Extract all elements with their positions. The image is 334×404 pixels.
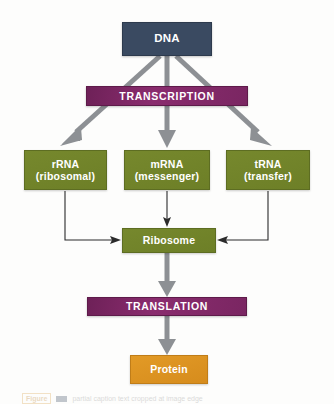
- node-protein-label: Protein: [150, 363, 188, 375]
- node-trna-sublabel: (transfer): [244, 170, 292, 182]
- node-protein: Protein: [130, 355, 208, 384]
- node-translation-label: TRANSLATION: [126, 300, 208, 312]
- node-trna-label: tRNA: [254, 158, 281, 170]
- node-transcription-label: TRANSCRIPTION: [119, 90, 214, 102]
- node-dna: DNA: [122, 22, 212, 56]
- edge-ribosome-to-translation: [158, 253, 176, 297]
- node-ribosome: Ribosome: [122, 228, 216, 253]
- node-translation: TRANSLATION: [87, 297, 247, 316]
- node-ribosome-label: Ribosome: [143, 234, 195, 246]
- caption-figure-tag: Figure: [22, 393, 51, 404]
- caption-row: Figure partial caption text cropped at i…: [22, 393, 203, 404]
- node-dna-label: DNA: [154, 32, 180, 46]
- node-mrna: mRNA (messenger): [124, 150, 210, 190]
- node-rrna-sublabel: (ribosomal): [36, 170, 95, 182]
- node-mrna-label: mRNA: [151, 158, 184, 170]
- edge-mrna-to-ribosome: [163, 191, 171, 227]
- caption-text: partial caption text cropped at image ed…: [72, 395, 202, 402]
- node-rrna-label: rRNA: [52, 158, 80, 170]
- node-rrna: rRNA (ribosomal): [24, 150, 107, 190]
- edge-trna-to-ribosome: [217, 191, 268, 244]
- node-trna: tRNA (transfer): [226, 150, 310, 190]
- edge-layer: [0, 0, 334, 404]
- node-mrna-sublabel: (messenger): [135, 170, 200, 182]
- node-transcription: TRANSCRIPTION: [86, 86, 248, 106]
- edge-rrna-to-ribosome: [65, 191, 121, 244]
- caption-strip: Figure partial caption text cropped at i…: [0, 392, 334, 404]
- edge-translation-to-protein: [158, 316, 176, 355]
- diagram-canvas: DNA TRANSCRIPTION rRNA (ribosomal) mRNA …: [0, 0, 334, 404]
- caption-swatch-icon: [56, 396, 67, 402]
